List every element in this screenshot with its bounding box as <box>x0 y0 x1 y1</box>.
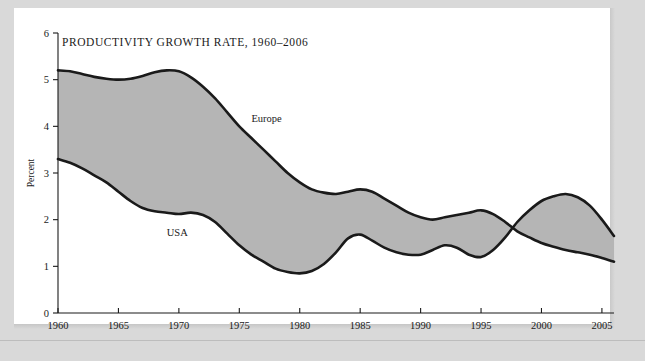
usa-series-label: USA <box>167 227 188 238</box>
x-tick-label: 1975 <box>229 320 250 331</box>
y-tick-label: 3 <box>44 168 49 179</box>
chart-title: PRODUCTIVITY GROWTH RATE, 1960–2006 <box>62 36 308 49</box>
y-tick-label: 6 <box>44 28 49 39</box>
x-tick-label: 1965 <box>108 320 129 331</box>
y-tick-label: 5 <box>44 74 49 85</box>
axis-labels: Percent <box>26 158 36 187</box>
chart-svg: 0123456 19601965197019751980198519901995… <box>0 0 645 361</box>
europe-series-label: Europe <box>251 113 282 124</box>
x-tick-label: 1995 <box>471 320 492 331</box>
y-tick-label: 4 <box>44 121 50 132</box>
plot-area <box>58 70 614 273</box>
x-axis-ticks: 1960196519701975198019851990199520002005 <box>48 308 613 331</box>
y-tick-label: 2 <box>44 214 49 225</box>
y-tick-label: 0 <box>44 308 49 319</box>
area-band-between-series <box>58 70 614 273</box>
x-tick-label: 2005 <box>591 320 612 331</box>
y-axis-label: Percent <box>26 158 36 187</box>
y-axis-ticks: 0123456 <box>44 28 58 319</box>
x-tick-label: 1985 <box>350 320 371 331</box>
x-tick-label: 2000 <box>531 320 552 331</box>
y-tick-label: 1 <box>44 261 49 272</box>
x-tick-label: 1970 <box>168 320 189 331</box>
x-tick-label: 1980 <box>289 320 310 331</box>
x-tick-label: 1990 <box>410 320 431 331</box>
x-tick-label: 1960 <box>48 320 69 331</box>
productivity-growth-chart: 0123456 19601965197019751980198519901995… <box>0 0 645 361</box>
